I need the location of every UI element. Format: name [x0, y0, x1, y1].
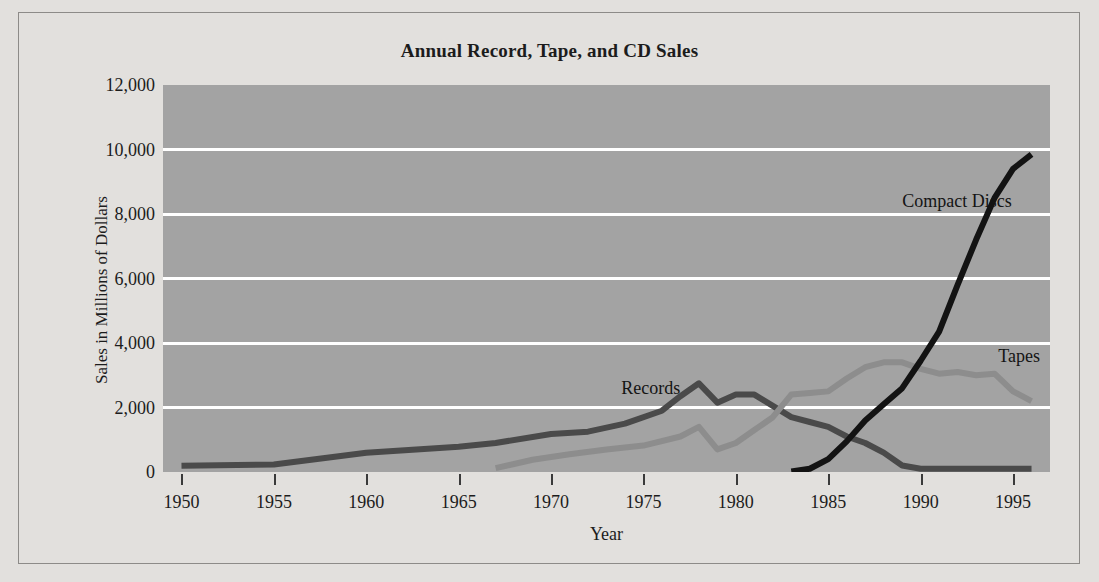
figure: Annual Record, Tape, and CD Sales Compac… — [0, 0, 1099, 582]
x-axis-title: Year — [163, 524, 1050, 545]
series-lines — [163, 85, 1050, 472]
x-tick-mark — [643, 474, 645, 485]
chart-title: Annual Record, Tape, and CD Sales — [0, 40, 1099, 62]
series-label-records: Records — [621, 378, 680, 399]
x-tick-label: 1980 — [696, 492, 776, 513]
x-axis-tick-labels: 1950195519601965197019751980198519901995 — [163, 492, 1050, 516]
x-tick-mark — [181, 474, 183, 485]
y-tick-label: 12,000 — [69, 75, 155, 96]
x-tick-mark — [366, 474, 368, 485]
y-tick-label: 2,000 — [69, 397, 155, 418]
x-tick-label: 1990 — [881, 492, 961, 513]
x-tick-mark — [921, 474, 923, 485]
x-tick-mark — [459, 474, 461, 485]
x-tick-label: 1960 — [326, 492, 406, 513]
y-tick-label: 0 — [69, 462, 155, 483]
y-tick-label: 4,000 — [69, 333, 155, 354]
series-line-tapes — [496, 362, 1032, 468]
y-tick-label: 6,000 — [69, 268, 155, 289]
x-tick-mark — [736, 474, 738, 485]
x-tick-mark — [274, 474, 276, 485]
x-tick-label: 1975 — [603, 492, 683, 513]
plot-area: Compact DiscsTapesRecords — [163, 85, 1050, 472]
x-tick-label: 1985 — [788, 492, 868, 513]
x-tick-label: 1970 — [511, 492, 591, 513]
x-tick-label: 1950 — [141, 492, 221, 513]
y-axis-ticks: Sales in Millions of Dollars 02,0004,000… — [60, 85, 155, 472]
series-label-compact-discs: Compact Discs — [902, 191, 1012, 212]
x-tick-mark — [1013, 474, 1015, 485]
x-axis-tick-marks — [163, 474, 1050, 486]
x-tick-label: 1995 — [973, 492, 1053, 513]
x-tick-mark — [828, 474, 830, 485]
series-label-tapes: Tapes — [998, 346, 1040, 367]
series-line-records — [181, 383, 1031, 468]
y-tick-label: 8,000 — [69, 204, 155, 225]
x-tick-label: 1955 — [234, 492, 314, 513]
y-axis-title: Sales in Millions of Dollars — [92, 140, 112, 440]
y-tick-label: 10,000 — [69, 139, 155, 160]
x-tick-mark — [551, 474, 553, 485]
x-tick-label: 1965 — [419, 492, 499, 513]
